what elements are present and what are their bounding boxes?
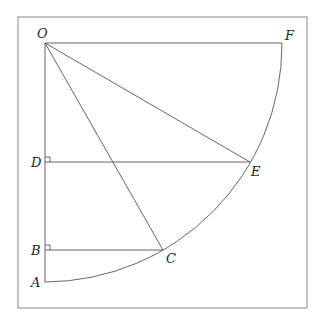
right-angle-marker-B: [45, 245, 50, 250]
label-B: B: [30, 243, 41, 258]
label-A: A: [30, 275, 40, 290]
label-F: F: [284, 28, 295, 43]
label-D: D: [30, 155, 42, 170]
right-angle-marker-D: [45, 157, 50, 162]
segment-OE: [45, 43, 250, 162]
label-C: C: [166, 251, 176, 266]
label-O: O: [37, 26, 48, 41]
arc-AF: [45, 43, 282, 282]
segment-OC: [45, 43, 163, 250]
geometry-diagram: O F D E B C A: [0, 0, 323, 323]
diagram-frame: [18, 17, 307, 308]
label-E: E: [250, 164, 261, 179]
